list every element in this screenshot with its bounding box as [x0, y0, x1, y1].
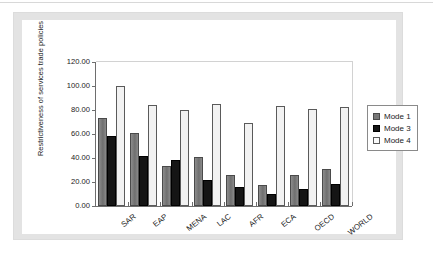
- bar-mode-1[interactable]: [226, 175, 235, 206]
- bar-mode-4[interactable]: [116, 86, 125, 206]
- bar-group: [160, 62, 192, 206]
- bar-mode-4[interactable]: [308, 109, 317, 206]
- bar-mode-1[interactable]: [98, 118, 107, 206]
- y-axis-tick-label: 120.00: [67, 57, 90, 67]
- bar-group-bars: [162, 62, 189, 206]
- mode-1-swatch: [373, 113, 380, 120]
- bar-mode-3[interactable]: [331, 184, 340, 206]
- bar-mode-3[interactable]: [107, 136, 116, 206]
- bar-mode-3[interactable]: [139, 156, 148, 206]
- x-axis-tick-mark: [352, 202, 353, 206]
- bar-group-bars: [194, 62, 221, 206]
- bar-group: [224, 62, 256, 206]
- bar-group-bars: [130, 62, 157, 206]
- legend-item-label: Mode 3: [384, 124, 411, 133]
- y-axis-tick: 100.00: [48, 81, 96, 91]
- chart-legend: Mode 1Mode 3Mode 4: [367, 105, 418, 151]
- bar-mode-1[interactable]: [162, 166, 171, 206]
- chart-canvas: Restrictiveness of services trade polici…: [22, 20, 396, 234]
- x-axis-label: LAC: [215, 212, 232, 228]
- page-top-rule: [0, 2, 433, 3]
- bar-mode-1[interactable]: [322, 169, 331, 206]
- bar-group-bars: [258, 62, 285, 206]
- bar-mode-3[interactable]: [203, 180, 212, 206]
- y-axis-tick: 60.00: [48, 129, 96, 139]
- bar-group: [96, 62, 128, 206]
- figure-page: Restrictiveness of services trade polici…: [0, 0, 433, 262]
- bar-mode-4[interactable]: [276, 106, 285, 206]
- legend-item[interactable]: Mode 3: [373, 122, 411, 134]
- legend-item[interactable]: Mode 4: [373, 134, 411, 146]
- bar-group-bars: [98, 62, 125, 206]
- bar-mode-1[interactable]: [130, 133, 139, 206]
- bar-mode-4[interactable]: [148, 105, 157, 206]
- figure-outer-frame: Restrictiveness of services trade polici…: [13, 12, 403, 240]
- y-axis-tick-label: 40.00: [71, 153, 90, 163]
- mode-3-swatch: [373, 125, 380, 132]
- y-axis-tick-label: 80.00: [71, 105, 90, 115]
- y-axis-tick: 120.00: [48, 57, 96, 67]
- bar-group-bars: [290, 62, 317, 206]
- mode-4-swatch: [373, 137, 380, 144]
- bar-mode-1[interactable]: [290, 175, 299, 206]
- bar-mode-3[interactable]: [171, 160, 180, 206]
- y-axis-tick-label: 100.00: [67, 81, 90, 91]
- bar-group-bars: [226, 62, 253, 206]
- bar-mode-4[interactable]: [212, 104, 221, 206]
- x-axis-label: MENA: [185, 212, 208, 233]
- bar-mode-1[interactable]: [194, 157, 203, 206]
- y-axis-tick-label: 20.00: [71, 177, 90, 187]
- y-axis-tick: 20.00: [48, 177, 96, 187]
- plot-area: 120.00100.0080.0060.0040.0020.000.00 SAR…: [95, 62, 352, 207]
- plot-right-border: [352, 61, 353, 206]
- bar-group: [320, 62, 352, 206]
- bar-group: [192, 62, 224, 206]
- y-axis-title: Restrictiveness of services trade polici…: [36, 9, 45, 169]
- bar-group-bars: [322, 62, 349, 206]
- legend-item-label: Mode 1: [384, 112, 411, 121]
- bar-mode-4[interactable]: [340, 107, 349, 206]
- x-axis-label: AFR: [247, 212, 265, 229]
- bar-group: [128, 62, 160, 206]
- x-axis-label: ECA: [279, 212, 297, 229]
- y-axis-tick: 80.00: [48, 105, 96, 115]
- x-axis-label: SAR: [119, 212, 137, 229]
- y-axis-tick: 40.00: [48, 153, 96, 163]
- legend-item[interactable]: Mode 1: [373, 110, 411, 122]
- x-axis-label: EAP: [151, 212, 169, 229]
- y-axis-tick: 0.00: [48, 201, 96, 211]
- bar-mode-4[interactable]: [180, 110, 189, 206]
- bar-mode-1[interactable]: [258, 185, 267, 206]
- bar-mode-4[interactable]: [244, 123, 253, 206]
- bar-mode-3[interactable]: [267, 194, 276, 206]
- legend-item-label: Mode 4: [384, 136, 411, 145]
- bar-mode-3[interactable]: [235, 187, 244, 206]
- x-axis-label: OECD: [313, 212, 336, 233]
- x-axis-label: WORLD: [346, 212, 374, 237]
- bar-mode-3[interactable]: [299, 189, 308, 206]
- bar-group: [256, 62, 288, 206]
- y-axis-tick-label: 60.00: [71, 129, 90, 139]
- y-axis-tick-label: 0.00: [75, 201, 90, 211]
- bar-group: [288, 62, 320, 206]
